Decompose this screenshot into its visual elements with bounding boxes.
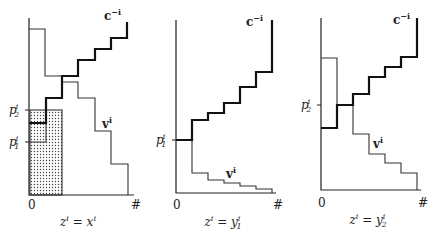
- c-staircase: [176, 20, 272, 140]
- origin-label: 0: [28, 198, 36, 212]
- three-panel-staircase-diagram: pi2pi10#c−ivizi = xipi10#c−ivizi = yi1pi…: [0, 0, 442, 235]
- origin-label: 0: [318, 196, 326, 210]
- c-curve-label: c−i: [393, 11, 410, 27]
- price-tick-label: pi2: [301, 97, 311, 114]
- panel-caption: zi = xi: [59, 214, 96, 229]
- panel-2: pi10#c−ivizi = yi1: [156, 13, 283, 231]
- v-curve-label: vi: [372, 135, 383, 151]
- end-label: #: [418, 196, 428, 210]
- panel-caption: zi = yi2: [348, 212, 386, 229]
- origin-label: 0: [173, 198, 181, 212]
- v-curve-label: vi: [101, 115, 112, 131]
- panel-caption: zi = yi1: [203, 214, 241, 231]
- c-staircase: [321, 18, 417, 128]
- panel-3: pi20#c−ivizi = yi2: [301, 11, 428, 229]
- c-staircase: [29, 22, 127, 123]
- end-label: #: [273, 198, 283, 212]
- c-curve-label: c−i: [246, 13, 263, 29]
- panel-1: pi2pi10#c−ivizi = xi: [9, 7, 141, 229]
- c-curve-label: c−i: [104, 7, 121, 23]
- price-tick-label: pi1: [9, 134, 19, 151]
- price-tick-label: pi2: [9, 102, 19, 119]
- end-label: #: [131, 198, 141, 212]
- v-curve-label: vi: [225, 165, 236, 181]
- price-tick-label: pi1: [156, 132, 166, 149]
